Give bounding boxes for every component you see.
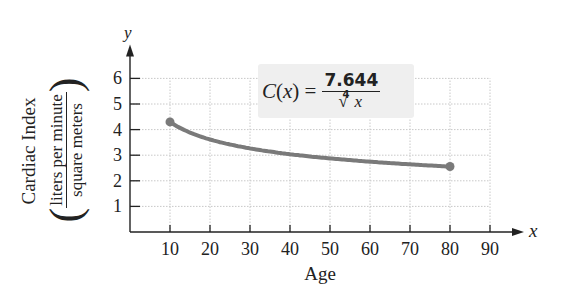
formula-fraction: 7.644 √ 4 x <box>322 70 380 112</box>
x-tick-label: 10 <box>161 239 179 259</box>
x-tick-label: 90 <box>481 239 499 259</box>
x-tick-label: 60 <box>361 239 379 259</box>
x-axis-label: Age <box>304 263 336 284</box>
x-tick-label: 30 <box>241 239 259 259</box>
chart: yx 102030405060708090123456Age C(x) = 7.… <box>0 0 561 297</box>
y-axis-arrow-icon <box>126 44 134 56</box>
series-curve <box>170 122 450 167</box>
y-axis-label: Cardiac Index <box>18 66 40 236</box>
formula-numerator: 7.644 <box>322 70 380 92</box>
y-axis-units: ( liters per minute square meters ) <box>44 62 88 238</box>
left-paren: ( <box>44 208 88 223</box>
formula-denominator: √ 4 x <box>339 92 365 112</box>
x-tick-label: 80 <box>441 239 459 259</box>
units-numerator: liters per minute <box>47 92 67 207</box>
right-paren: ) <box>44 78 88 93</box>
x-tick-label: 40 <box>281 239 299 259</box>
y-tick-label: 3 <box>113 145 122 165</box>
x-axis-symbol: x <box>528 220 538 241</box>
y-tick-label: 1 <box>113 196 122 216</box>
y-tick-label: 4 <box>113 120 122 140</box>
endpoint-marker <box>166 117 175 126</box>
formula-lhs: C(x) = <box>262 79 316 104</box>
units-fraction: liters per minute square meters <box>47 92 86 207</box>
x-tick-label: 70 <box>401 239 419 259</box>
x-axis-arrow-icon <box>512 228 524 236</box>
radical-index: 4 <box>343 89 350 100</box>
y-tick-label: 5 <box>113 94 122 114</box>
units-denominator: square meters <box>67 103 86 197</box>
y-tick-label: 2 <box>113 171 122 191</box>
data-series <box>166 117 455 171</box>
function-formula: C(x) = 7.644 √ 4 x <box>262 64 412 118</box>
x-tick-label: 50 <box>321 239 339 259</box>
x-tick-label: 20 <box>201 239 219 259</box>
radicand: x <box>353 91 365 111</box>
endpoint-marker <box>446 162 455 171</box>
y-axis-symbol: y <box>122 23 132 42</box>
y-tick-label: 6 <box>113 68 122 88</box>
